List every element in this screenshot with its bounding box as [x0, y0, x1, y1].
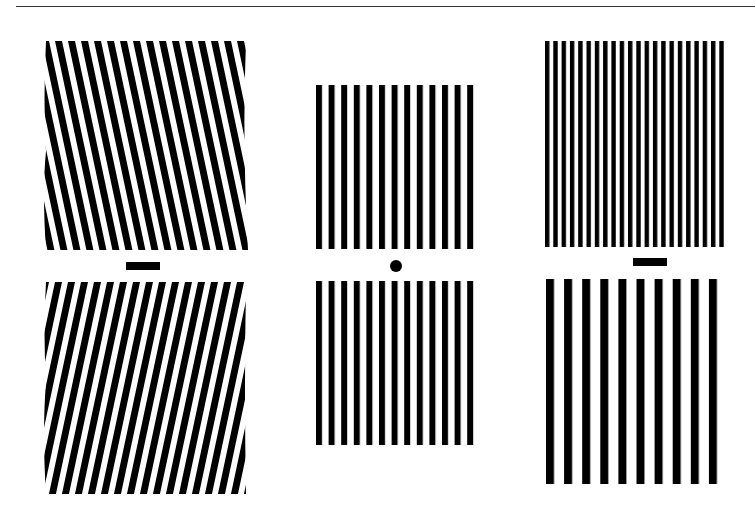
grating-low-frequency-bottom-graphic: [546, 279, 726, 484]
grating-tilted-right-bottom: [42, 282, 248, 494]
grating-high-frequency-top: [545, 41, 725, 247]
fixation-bar-right: [633, 258, 667, 266]
grating-vertical-middle-top: [316, 85, 478, 249]
fixation-bar-left: [126, 262, 160, 270]
grating-vertical-middle-top-graphic: [316, 85, 478, 249]
grating-tilted-right-bottom-graphic: [42, 282, 248, 494]
grating-vertical-middle-bottom-graphic: [316, 281, 478, 445]
grating-low-frequency-bottom: [546, 279, 726, 484]
grating-vertical-middle-bottom: [316, 281, 478, 445]
grating-tilted-left-top: [42, 41, 248, 250]
grating-high-frequency-top-graphic: [545, 41, 725, 247]
fixation-dot-middle: [390, 260, 402, 272]
grating-tilted-left-top-graphic: [42, 41, 248, 250]
top-rule: [16, 6, 755, 7]
